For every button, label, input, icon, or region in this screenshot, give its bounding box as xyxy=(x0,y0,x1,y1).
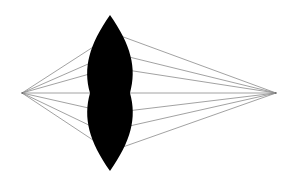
refracted-ray xyxy=(125,93,276,127)
incident-ray xyxy=(22,73,93,93)
incident-ray xyxy=(22,93,95,128)
lens-ray-diagram xyxy=(0,0,295,184)
refracted-ray xyxy=(127,93,276,111)
focal-point xyxy=(275,92,277,94)
refracted-ray xyxy=(120,93,276,148)
incident-ray xyxy=(22,93,93,109)
incident-ray xyxy=(22,61,95,93)
source-point xyxy=(21,92,23,94)
refracted-rays xyxy=(118,35,276,148)
refracted-ray xyxy=(125,56,276,93)
refracted-ray xyxy=(118,35,276,93)
biconvex-lens xyxy=(87,15,133,171)
refracted-ray xyxy=(127,70,276,93)
